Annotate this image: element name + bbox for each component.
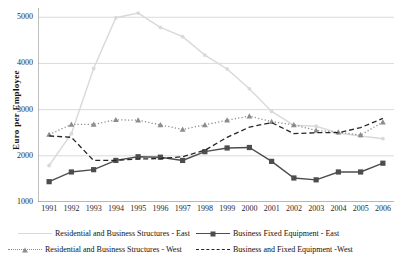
legend-item[interactable]: Business Fixed Equipment - East <box>196 228 339 239</box>
data-point <box>47 179 52 184</box>
light-gray-line-icon <box>18 228 52 239</box>
legend-item-label: Residential and Business Structures - We… <box>45 246 182 254</box>
data-point <box>202 122 208 127</box>
data-point <box>247 87 251 91</box>
series-line <box>49 116 383 135</box>
data-point <box>69 169 74 174</box>
chart-container: Euro per Employee 50004000300020001000 1… <box>0 0 400 266</box>
data-point <box>136 11 140 15</box>
legend-item[interactable]: Residential and Business Structures - Ea… <box>18 228 190 239</box>
legend-item-label: Residential and Business Structures - Ea… <box>55 230 190 238</box>
y-axis-tick: 5000 <box>3 13 33 21</box>
data-point <box>269 159 274 164</box>
data-point <box>91 167 96 172</box>
data-point <box>47 164 51 168</box>
series-3 <box>49 118 383 160</box>
data-point <box>225 67 229 71</box>
data-point <box>180 127 186 132</box>
data-point <box>181 35 185 39</box>
dark-square-line-icon <box>196 228 230 239</box>
y-axis-tick: 1000 <box>3 198 33 206</box>
data-point <box>114 16 118 20</box>
y-axis-tick: 2000 <box>3 152 33 160</box>
data-point <box>158 26 162 30</box>
data-point <box>69 132 73 136</box>
data-point <box>380 119 386 124</box>
x-axis-tick-labels: 1991199219931994199519961997199819992000… <box>38 205 394 219</box>
legend-triangle-marker <box>22 247 28 252</box>
y-axis-tick: 4000 <box>3 59 33 67</box>
data-point <box>203 53 207 57</box>
legend-row: Residential and Business Structures - Ea… <box>0 226 400 241</box>
x-axis-tick: 2006 <box>370 205 396 213</box>
legend-square-marker <box>211 231 216 236</box>
legend-row: Residential and Business Structures - We… <box>0 242 400 257</box>
series-line <box>49 147 383 181</box>
data-point <box>381 137 385 141</box>
series-2 <box>46 113 386 137</box>
data-point <box>380 161 385 166</box>
data-point <box>336 169 341 174</box>
chart-svg <box>38 8 394 202</box>
legend-item-label: Business and Fixed Equipment -West <box>233 246 353 254</box>
chart-legend: Residential and Business Structures - Ea… <box>0 226 400 260</box>
data-point <box>225 145 230 150</box>
data-point <box>180 158 185 163</box>
plot-area <box>38 8 394 202</box>
y-axis-tick: 3000 <box>3 106 33 114</box>
data-point <box>291 175 296 180</box>
series-line <box>49 13 383 165</box>
data-point <box>314 177 319 182</box>
legend-item[interactable]: Residential and Business Structures - We… <box>8 244 182 255</box>
data-point <box>68 122 74 127</box>
data-point <box>92 67 96 71</box>
legend-item-label: Business Fixed Equipment - East <box>233 230 339 238</box>
series-line <box>49 118 383 160</box>
series-1 <box>47 145 386 184</box>
y-axis-tick-labels: 50004000300020001000 <box>0 0 33 210</box>
data-point <box>246 113 252 118</box>
data-point <box>358 169 363 174</box>
gray-dotted-triangle-icon <box>8 244 42 255</box>
legend-item[interactable]: Business and Fixed Equipment -West <box>196 244 353 255</box>
data-point <box>135 117 141 122</box>
data-point <box>270 110 274 114</box>
data-point <box>247 145 252 150</box>
black-dashed-line-icon <box>196 244 230 255</box>
